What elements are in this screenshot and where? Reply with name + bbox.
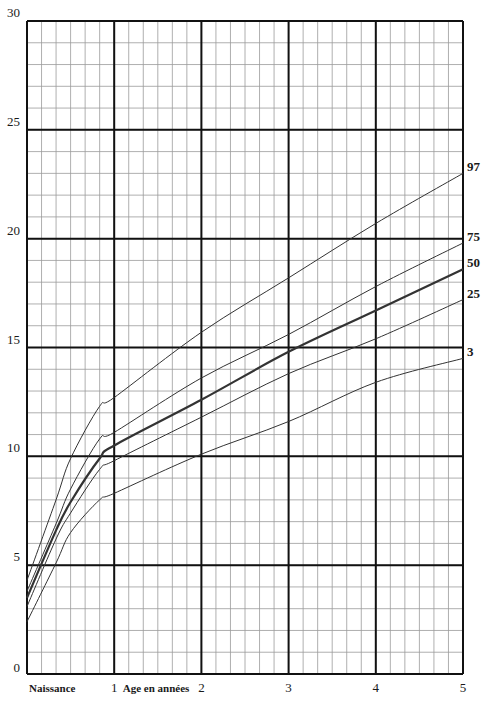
x-tick-label: 1 — [111, 680, 118, 695]
x-tick-label: 5 — [460, 680, 467, 695]
y-axis-tick-labels: 051015202530 — [7, 5, 20, 675]
y-tick-label: 30 — [7, 5, 20, 20]
percentile-label-97: 97 — [467, 159, 481, 174]
percentile-labels: 977550253 — [467, 159, 481, 359]
x-axis-title: Age en années — [123, 682, 190, 694]
x-tick-label: 2 — [198, 680, 205, 695]
x-tick-label: Naissance — [29, 682, 76, 694]
x-tick-label: 4 — [373, 680, 380, 695]
growth-chart: 051015202530 Naissance12345Age en années… — [0, 0, 481, 701]
percentile-label-50: 50 — [467, 255, 480, 270]
y-tick-label: 10 — [7, 440, 20, 455]
percentile-label-75: 75 — [467, 229, 481, 244]
y-tick-label: 15 — [7, 332, 20, 347]
x-axis-tick-labels: Naissance12345Age en années — [29, 680, 466, 695]
x-tick-label: 3 — [285, 680, 292, 695]
y-tick-label: 5 — [14, 549, 21, 564]
y-tick-label: 0 — [14, 660, 21, 675]
percentile-label-3: 3 — [467, 344, 474, 359]
y-tick-label: 25 — [7, 114, 20, 129]
percentile-label-25: 25 — [467, 286, 481, 301]
y-tick-label: 20 — [7, 223, 20, 238]
